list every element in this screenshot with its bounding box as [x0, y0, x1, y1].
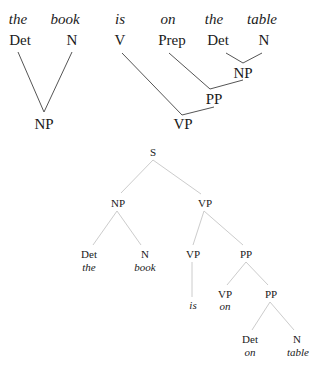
- node-det: Det: [81, 249, 97, 260]
- word-table: table: [247, 12, 277, 27]
- word-the: the: [205, 12, 223, 27]
- leaf-table: table: [287, 347, 309, 358]
- cat-prep: Prep: [158, 33, 186, 48]
- phrase-vp: VP: [173, 117, 192, 132]
- word-on: on: [161, 12, 176, 27]
- cat-v: V: [115, 33, 126, 48]
- leaf-the: the: [82, 262, 95, 273]
- word-is: is: [115, 12, 125, 27]
- word-book: book: [50, 12, 79, 27]
- leaf-is: is: [189, 300, 196, 311]
- tree-edges: [0, 0, 318, 367]
- node-vp-inner: VP: [186, 249, 200, 260]
- leaf-on: on: [245, 347, 256, 358]
- word-the: the: [9, 12, 27, 27]
- node-vp-on: VP: [218, 289, 232, 300]
- phrase-np-subject: NP: [34, 117, 53, 132]
- node-n-inner: N: [293, 334, 301, 345]
- cat-n: N: [67, 33, 78, 48]
- node-pp: PP: [240, 249, 252, 260]
- cat-det: Det: [9, 33, 31, 48]
- node-np: NP: [111, 198, 125, 209]
- phrase-np-object: NP: [233, 66, 252, 81]
- node-s: S: [150, 147, 156, 158]
- node-pp-inner: PP: [265, 289, 277, 300]
- node-det-inner: Det: [242, 334, 258, 345]
- top-tree-edges: [18, 52, 262, 115]
- leaf-on: on: [220, 301, 231, 312]
- cat-n: N: [259, 33, 270, 48]
- cat-det: Det: [207, 33, 229, 48]
- node-n: N: [141, 249, 149, 260]
- leaf-book: book: [134, 262, 155, 273]
- node-vp: VP: [198, 198, 212, 209]
- phrase-pp: PP: [206, 92, 223, 107]
